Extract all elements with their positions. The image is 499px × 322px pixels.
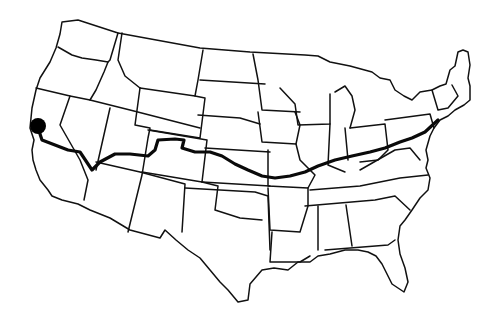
wi-mi [280, 88, 330, 125]
il-in-oh [328, 124, 345, 172]
ne-sd [198, 115, 260, 124]
ar-la [268, 188, 308, 232]
mi-lower [335, 86, 355, 128]
in-oh [345, 128, 348, 160]
us-outline [30, 20, 470, 302]
az-nm-border [96, 162, 185, 232]
state-boundaries [30, 20, 470, 302]
ks-ne [205, 148, 270, 152]
ok-panhandle [202, 182, 262, 220]
mo-box [268, 144, 315, 188]
tn-al-ga [305, 196, 410, 210]
ga-fl [325, 240, 395, 250]
us-map [0, 0, 499, 322]
id-mt-border [118, 33, 140, 88]
ny-pa [385, 114, 434, 128]
id-west-border [90, 33, 118, 100]
ia-box [258, 112, 300, 144]
route-line [38, 120, 438, 178]
mt-dakota-border [195, 50, 203, 96]
al-ga [346, 205, 352, 246]
ky-tn [310, 175, 428, 190]
la-ms [270, 232, 310, 262]
wa-or-border [58, 47, 108, 62]
start-marker [30, 118, 46, 134]
sd-nd [200, 80, 265, 84]
